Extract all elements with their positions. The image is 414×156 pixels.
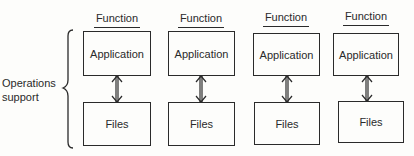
function-label: Function (331, 10, 401, 22)
application-label: Application (339, 49, 393, 61)
bidirectional-arrow-icon (112, 76, 122, 102)
function-label: Function (166, 12, 236, 24)
application-box: Application (83, 31, 151, 76)
files-label: Files (359, 116, 382, 128)
function-underline (178, 27, 224, 28)
application-box: Application (168, 31, 235, 76)
files-box: Files (168, 102, 235, 146)
function-underline (94, 27, 140, 28)
curly-brace-icon (63, 30, 73, 148)
application-label: Application (175, 48, 229, 60)
application-box: Application (333, 33, 399, 76)
function-underline (263, 26, 309, 27)
bidirectional-arrow-icon (362, 76, 372, 101)
files-box: Files (254, 102, 320, 145)
application-label: Application (260, 49, 314, 61)
files-label: Files (105, 118, 128, 130)
function-label: Function (251, 11, 321, 23)
files-box: Files (338, 101, 404, 143)
files-label: Files (275, 118, 298, 130)
application-label: Application (90, 48, 144, 60)
function-underline (343, 25, 389, 26)
files-label: Files (190, 118, 213, 130)
bidirectional-arrow-icon (196, 76, 206, 102)
application-box: Application (253, 33, 320, 76)
function-label: Function (82, 12, 152, 24)
bidirectional-arrow-icon (282, 76, 292, 102)
files-box: Files (83, 102, 151, 146)
